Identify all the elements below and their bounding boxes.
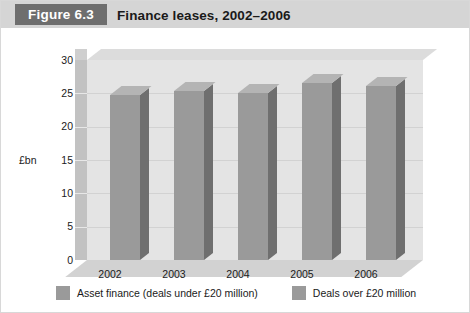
x-tick-label: 2005	[274, 268, 330, 280]
figure-panel: Figure 6.3 Finance leases, 2002–2006 £bn…	[0, 0, 470, 313]
bar-front-face	[302, 83, 332, 260]
bar-front-face	[174, 91, 204, 260]
bar-side-face	[140, 88, 149, 260]
chart-canvas: £bn 30 25 20 15 10 5 0	[1, 28, 470, 313]
figure-number-badge: Figure 6.3	[15, 4, 107, 25]
x-tick-label: 2006	[338, 268, 394, 280]
y-tick-label: 20	[47, 120, 73, 132]
bar-front-face	[366, 86, 396, 260]
legend-swatch-icon	[56, 286, 70, 300]
x-tick-label: 2003	[146, 268, 202, 280]
plot-left-wall	[75, 49, 87, 260]
legend-label: Deals over £20 million	[313, 287, 416, 299]
wall-hatch	[75, 227, 87, 228]
bar-front-face	[110, 95, 140, 260]
wall-hatch	[75, 160, 87, 161]
y-tick-label: 30	[47, 54, 73, 66]
wall-hatch	[75, 193, 87, 194]
x-tick-label: 2004	[210, 268, 266, 280]
y-tick-label: 0	[47, 254, 73, 266]
legend-label: Asset finance (deals under £20 million)	[77, 287, 258, 299]
figure-title: Finance leases, 2002–2006	[117, 5, 291, 25]
wall-hatch	[75, 127, 87, 128]
bar-side-face	[268, 86, 277, 260]
bar-side-face	[396, 79, 405, 260]
y-tick-label: 15	[47, 154, 73, 166]
y-tick-label: 5	[47, 220, 73, 232]
bar-front-face	[238, 93, 268, 260]
legend-item-asset-finance: Asset finance (deals under £20 million)	[56, 286, 258, 300]
x-tick-label: 2002	[82, 268, 138, 280]
plot-area	[87, 60, 423, 260]
bar-side-face	[204, 84, 213, 260]
wall-hatch	[75, 93, 87, 94]
y-tick-label: 25	[47, 87, 73, 99]
plot-top-ledge	[87, 49, 437, 60]
chart-legend: Asset finance (deals under £20 million) …	[1, 286, 470, 300]
y-axis-label: £bn	[19, 154, 37, 166]
y-tick-label: 10	[47, 187, 73, 199]
bar-side-face	[332, 76, 341, 260]
plot-left-wall-top	[75, 49, 87, 60]
legend-swatch-icon	[292, 286, 306, 300]
legend-item-deals-over-20m: Deals over £20 million	[292, 286, 416, 300]
